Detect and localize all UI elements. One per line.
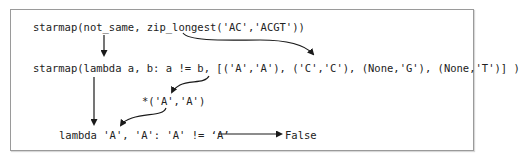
unpacked-tuple-expression: *('A','A') — [142, 95, 205, 107]
lambda-application-expression: lambda 'A', 'A': 'A' != ‘A’ — [59, 129, 230, 141]
starmap-lambda-expression: starmap(lambda a, b: a != b, [('A','A'),… — [33, 62, 520, 74]
starmap-zip-longest-expression: starmap(not_same, zip_longest('AC','ACGT… — [33, 21, 305, 33]
result-value: False — [285, 129, 317, 141]
